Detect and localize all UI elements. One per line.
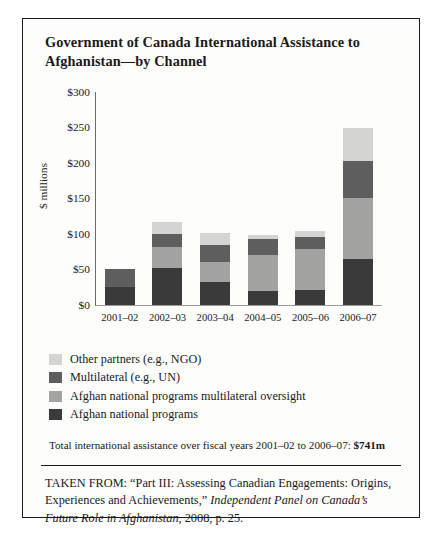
bar-column[interactable]: 2002–03 (152, 92, 182, 305)
legend-item-label: Afghan national programs (70, 407, 198, 422)
y-axis-tick-label: $150 (67, 192, 90, 204)
chart-area: $ millions $0$50$100$150$200$250$300 200… (23, 84, 419, 316)
y-axis-title: $ millions (37, 138, 49, 234)
bar-column[interactable]: 2003–04 (200, 92, 230, 305)
bar-column[interactable]: 2004–05 (248, 92, 278, 305)
legend-item[interactable]: Multilateral (e.g., UN) (49, 370, 419, 385)
bar-segment (200, 245, 230, 262)
x-axis-tick-label: 2001–02 (101, 312, 138, 323)
x-axis-tick-label: 2006–07 (340, 312, 377, 323)
legend-color-swatch (49, 372, 62, 383)
legend-item-label: Multilateral (e.g., UN) (70, 370, 180, 385)
bar-segment (343, 128, 373, 161)
bar-segment (295, 290, 325, 305)
bar-segment (200, 233, 230, 245)
legend-item[interactable]: Other partners (e.g., NGO) (49, 352, 419, 367)
chart-legend: Other partners (e.g., NGO)Multilateral (… (49, 352, 419, 423)
y-axis-tick-label: $200 (67, 157, 90, 169)
y-axis-tick-label: $50 (73, 263, 90, 275)
bar-column[interactable]: 2006–07 (343, 92, 373, 305)
bar-column[interactable]: 2005–06 (295, 92, 325, 305)
legend-item[interactable]: Afghan national programs (49, 407, 419, 422)
source-attribution: TAKEN FROM: “Part III: Assessing Canadia… (45, 475, 397, 527)
section-divider (41, 465, 401, 466)
bar-segment (343, 161, 373, 198)
bar-segment (248, 291, 278, 304)
plot-area: $0$50$100$150$200$250$300 2001–022002–03… (95, 92, 382, 306)
x-axis-tick-label: 2003–04 (197, 312, 234, 323)
bar-segment (248, 255, 278, 291)
legend-item-label: Other partners (e.g., NGO) (70, 352, 201, 367)
y-axis-tick-label: $300 (67, 86, 90, 98)
legend-color-swatch (49, 391, 62, 402)
total-note-text: Total international assistance over fisc… (49, 439, 354, 451)
bar-segment (105, 269, 135, 287)
bar-segment (295, 249, 325, 290)
bar-column[interactable]: 2001–02 (105, 92, 135, 305)
bar-segment (343, 259, 373, 304)
figure-container: Government of Canada International Assis… (22, 18, 420, 518)
bar-segment (152, 234, 182, 247)
bar-segment (152, 247, 182, 268)
figure-title: Government of Canada International Assis… (45, 33, 397, 72)
bar-segment (248, 239, 278, 255)
y-axis-tick-label: $250 (67, 121, 90, 133)
bar-segment (105, 287, 135, 305)
bar-segment (152, 268, 182, 305)
bar-segment (200, 282, 230, 305)
bar-segment (152, 222, 182, 234)
legend-item[interactable]: Afghan national programs multilateral ov… (49, 389, 419, 404)
x-axis-tick-label: 2002–03 (149, 312, 186, 323)
bar-segment (200, 262, 230, 282)
bar-segment (295, 237, 325, 248)
bar-segment (343, 198, 373, 260)
legend-color-swatch (49, 354, 62, 365)
bar-series-group: 2001–022002–032003–042004–052005–062006–… (96, 92, 382, 305)
legend-color-swatch (49, 409, 62, 420)
y-axis-tick-label: $100 (67, 228, 90, 240)
legend-item-label: Afghan national programs multilateral ov… (70, 389, 306, 404)
total-note-value: $741m (354, 439, 385, 451)
source-text-tail: , 2008, p. 25. (179, 511, 244, 525)
total-assistance-note: Total international assistance over fisc… (49, 438, 397, 454)
x-axis-tick-label: 2004–05 (244, 312, 281, 323)
y-axis-tick-label: $0 (79, 299, 90, 311)
x-axis-tick-label: 2005–06 (292, 312, 329, 323)
